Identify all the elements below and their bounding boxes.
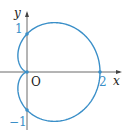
- y-axis-arrow-icon: [25, 11, 29, 17]
- x-tick-2: 2: [99, 75, 107, 89]
- origin-label: O: [31, 75, 41, 89]
- marked-point: [25, 108, 29, 112]
- x-axis-label: x: [113, 74, 120, 88]
- marked-point: [98, 70, 102, 74]
- marked-point: [25, 70, 29, 74]
- cardioid-plot: y x O 2 1 −1: [0, 0, 126, 132]
- marked-point: [25, 32, 29, 36]
- y-axis-label: y: [13, 6, 21, 20]
- y-tick-1: 1: [15, 22, 23, 36]
- y-tick-neg1: −1: [9, 115, 27, 129]
